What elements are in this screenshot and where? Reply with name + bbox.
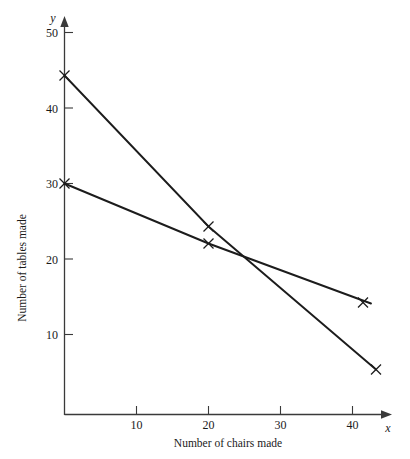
series-steep-marker-1	[204, 222, 214, 232]
y-axis-title: Number of tables made	[16, 214, 28, 322]
x-tick-label-30: 30	[275, 418, 287, 432]
x-axis-letter: x	[384, 421, 391, 435]
series-steep-path	[65, 76, 377, 370]
line-chart: 50 40 30 20 10 10 20 30 40 y x Number of…	[0, 0, 410, 459]
series-shallow-marker-1	[204, 239, 214, 249]
y-axis-letter: y	[49, 11, 56, 25]
series-steep-marker-2	[371, 365, 381, 375]
x-axis-title: Number of chairs made	[174, 437, 282, 449]
y-axis-arrow-icon	[60, 16, 68, 27]
chart-plot-area: 50 40 30 20 10 10 20 30 40 y x Number of…	[0, 0, 410, 459]
y-tick-label-group: 50 40 30 20 10	[46, 26, 58, 342]
y-tick-label-50: 50	[46, 26, 58, 40]
x-tick-label-group: 10 20 30 40	[131, 418, 359, 432]
x-tick-label-40: 40	[347, 418, 359, 432]
series-steep-constraint-line	[60, 71, 382, 375]
x-tick-group	[137, 406, 353, 415]
x-tick-label-10: 10	[131, 418, 143, 432]
y-tick-label-10: 10	[46, 328, 58, 342]
y-tick-label-40: 40	[46, 102, 58, 116]
y-tick-label-30: 30	[46, 177, 58, 191]
x-tick-label-20: 20	[203, 418, 215, 432]
series-shallow-path	[65, 184, 372, 304]
x-axis-arrow-icon	[381, 410, 392, 418]
axis-group	[60, 16, 392, 419]
series-shallow-constraint-line	[60, 179, 372, 308]
y-tick-label-20: 20	[46, 253, 58, 267]
